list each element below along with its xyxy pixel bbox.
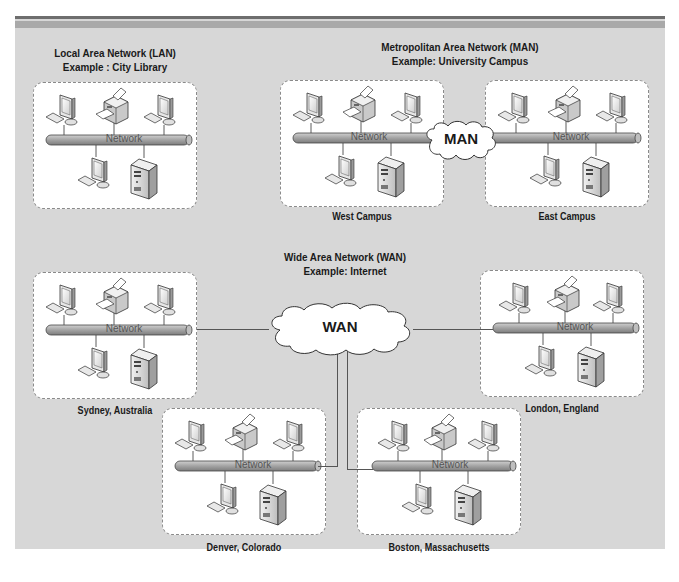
- server-icon: [378, 157, 404, 197]
- server-icon: [583, 157, 609, 197]
- printer-icon: [547, 276, 579, 312]
- workstation-icon: [468, 421, 499, 451]
- workstation-icon: [391, 93, 422, 123]
- wan-link-boston-horizontal: [347, 469, 373, 470]
- lan-heading: Local Area Network (LAN) Example : City …: [51, 46, 180, 74]
- lan-example: Example : City Library: [51, 60, 180, 74]
- workstation-icon: [175, 421, 206, 451]
- network-bus-label: Network: [555, 321, 595, 332]
- east-campus-network-box: Network: [485, 80, 649, 207]
- workstation-icon: [325, 156, 356, 186]
- denver-network-graphic: [163, 409, 327, 536]
- workstation-icon: [596, 93, 627, 123]
- workstation-icon: [46, 285, 77, 315]
- printer-icon: [225, 414, 257, 450]
- printer-icon: [548, 86, 580, 122]
- workstation-icon: [144, 285, 175, 315]
- sydney-label: Sydney, Australia: [51, 404, 180, 416]
- sydney-network-box: Network: [33, 272, 197, 399]
- workstation-icon: [144, 95, 175, 125]
- london-network-box: Network: [480, 270, 644, 397]
- wan-title: Wide Area Network (WAN): [268, 250, 423, 264]
- workstation-icon: [78, 348, 109, 378]
- workstation-icon: [530, 156, 561, 186]
- london-network-graphic: [481, 271, 645, 398]
- wan-link-boston-vertical: [347, 350, 348, 469]
- wan-link-london: [413, 329, 493, 330]
- network-bus-label: Network: [551, 131, 591, 142]
- server-icon: [578, 347, 604, 387]
- wan-link-sydney: [197, 329, 269, 330]
- network-bus-label: Network: [104, 133, 144, 144]
- network-bus-label: Network: [104, 323, 144, 334]
- wan-cloud: WAN: [264, 300, 416, 358]
- panel-top-bar: [15, 21, 665, 28]
- network-bus-label: Network: [233, 459, 273, 470]
- panel-top-rule: [15, 16, 665, 19]
- workstation-icon: [46, 95, 77, 125]
- man-cloud-label: MAN: [422, 130, 500, 147]
- workstation-icon: [78, 158, 109, 188]
- wan-cloud-label: WAN: [264, 318, 416, 335]
- wan-heading: Wide Area Network (WAN) Example: Interne…: [268, 250, 423, 278]
- server-icon: [455, 485, 481, 525]
- denver-network-box: Network: [162, 408, 326, 535]
- sydney-network-graphic: [34, 273, 198, 400]
- lan-network-box: Network: [33, 82, 197, 209]
- denver-label: Denver, Colorado: [173, 541, 314, 553]
- workstation-icon: [207, 484, 238, 514]
- west-campus-network-box: Network: [280, 80, 444, 207]
- server-icon: [131, 159, 157, 199]
- west-campus-label: West Campus: [291, 210, 432, 222]
- workstation-icon: [378, 421, 409, 451]
- printer-icon: [343, 86, 375, 122]
- workstation-icon: [293, 93, 324, 123]
- wan-link-denver-horizontal: [318, 466, 338, 467]
- wan-link-denver-vertical: [337, 350, 338, 466]
- man-title: Metropolitan Area Network (MAN): [365, 40, 554, 54]
- network-bus-label: Network: [349, 131, 389, 142]
- server-icon: [260, 485, 286, 525]
- workstation-icon: [525, 346, 556, 376]
- man-cloud: MAN: [422, 118, 500, 162]
- network-bus-label: Network: [430, 459, 470, 470]
- east-campus-label: East Campus: [496, 210, 637, 222]
- workstation-icon: [499, 283, 530, 313]
- man-heading: Metropolitan Area Network (MAN) Example:…: [365, 40, 554, 68]
- printer-icon: [96, 278, 128, 314]
- printer-icon: [96, 88, 128, 124]
- boston-network-graphic: [358, 409, 522, 536]
- printer-icon: [424, 414, 456, 450]
- west-campus-network-graphic: [281, 81, 445, 208]
- workstation-icon: [402, 484, 433, 514]
- man-example: Example: University Campus: [365, 54, 554, 68]
- boston-network-box: Network: [357, 408, 521, 535]
- workstation-icon: [498, 93, 529, 123]
- server-icon: [131, 349, 157, 389]
- wan-example: Example: Internet: [268, 264, 423, 278]
- boston-label: Boston, Massachusetts: [368, 541, 509, 553]
- lan-network-graphic: [34, 83, 198, 210]
- east-campus-network-graphic: [486, 81, 650, 208]
- lan-title: Local Area Network (LAN): [51, 46, 180, 60]
- workstation-icon: [593, 283, 624, 313]
- workstation-icon: [273, 421, 304, 451]
